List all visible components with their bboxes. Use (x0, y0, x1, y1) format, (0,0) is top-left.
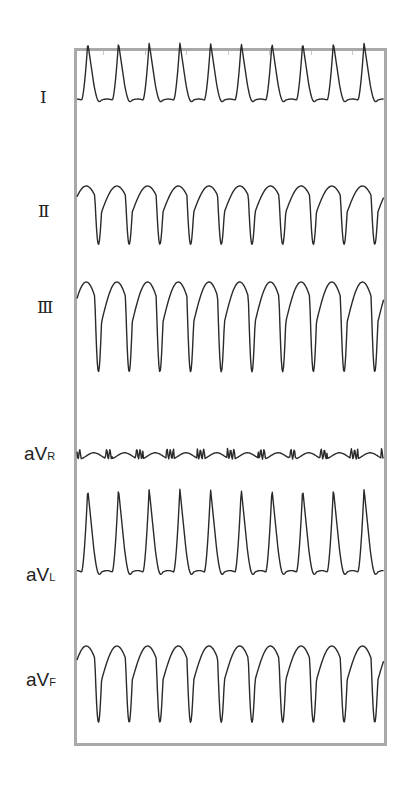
ecg-trace-i (77, 43, 384, 101)
ecg-trace-ii (77, 186, 384, 244)
ecg-trace-avf (77, 646, 384, 722)
ecg-trace-iii (77, 282, 384, 372)
ecg-traces (0, 0, 414, 796)
ecg-trace-avl (77, 489, 384, 574)
ecg-trace-avr (77, 448, 384, 459)
